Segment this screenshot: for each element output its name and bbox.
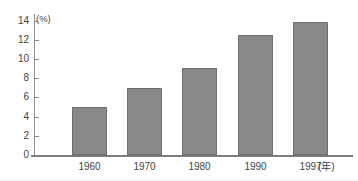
bar — [238, 35, 273, 155]
y-tick-mark — [35, 59, 39, 60]
y-tick-mark — [35, 78, 39, 79]
y-axis-unit-label: (%) — [36, 14, 51, 24]
scan-edge — [0, 180, 358, 181]
y-tick-label: 8 — [23, 73, 29, 83]
y-tick-label: 0 — [23, 150, 29, 160]
y-tick-mark — [35, 97, 39, 98]
bar-chart: (%) 02468101214 19601970198019901997 (年) — [0, 0, 358, 181]
plot-area: (%) 02468101214 — [34, 14, 327, 157]
x-tick-label: 1980 — [188, 161, 210, 172]
bar — [182, 68, 217, 155]
y-tick-label: 2 — [23, 131, 29, 141]
y-tick-mark — [35, 117, 39, 118]
y-tick-label: 12 — [18, 35, 29, 45]
x-tick-label: 1970 — [133, 161, 155, 172]
y-tick-label: 10 — [18, 54, 29, 64]
bar — [293, 22, 328, 155]
x-tick-label: 1990 — [244, 161, 266, 172]
chart-title-cropped — [78, 0, 186, 4]
bar — [72, 107, 107, 155]
y-tick-mark — [35, 155, 39, 156]
y-tick-mark — [35, 40, 39, 41]
bar — [127, 88, 162, 155]
y-tick-mark — [35, 136, 39, 137]
y-tick-label: 14 — [18, 16, 29, 26]
y-tick-mark — [35, 21, 39, 22]
x-axis-baseline — [31, 155, 353, 157]
y-tick-label: 4 — [23, 112, 29, 122]
x-axis-unit-label: (年) — [318, 161, 335, 172]
y-tick-label: 6 — [23, 92, 29, 102]
x-tick-label: 1960 — [78, 161, 100, 172]
